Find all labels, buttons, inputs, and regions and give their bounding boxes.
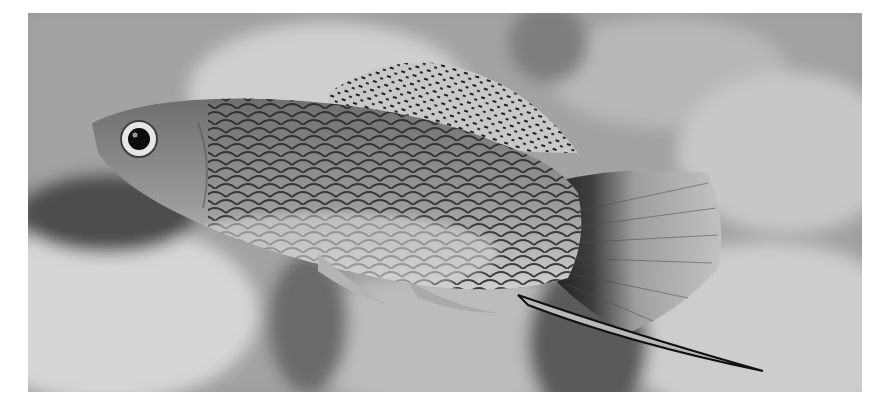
fish-eye bbox=[121, 121, 157, 157]
fish-illustration bbox=[28, 13, 862, 392]
fish-photo bbox=[28, 13, 862, 392]
